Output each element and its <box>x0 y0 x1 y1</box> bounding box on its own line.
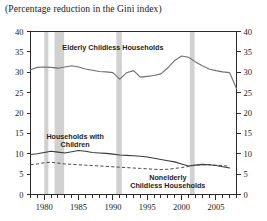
x-tick-label: 2000 <box>173 202 190 212</box>
x-tick-label: 2005 <box>207 202 224 212</box>
y-tick-label-right: 35 <box>244 47 253 57</box>
y-tick-label-left: 10 <box>15 149 24 159</box>
x-tick-label: 1980 <box>36 202 53 212</box>
chart-canvas: 0510152025303540 0510152025303540 198019… <box>0 0 267 221</box>
y-tick-label-right: 20 <box>244 108 253 118</box>
y-axis-right: 0510152025303540 <box>237 27 253 200</box>
y-tick-label-right: 5 <box>244 169 248 179</box>
chart-title: (Percentage reduction in the Gini index) <box>5 4 162 14</box>
x-axis: 198019851990199520002005 <box>31 195 237 212</box>
y-tick-label-left: 30 <box>15 67 24 77</box>
figure-container: (Percentage reduction in the Gini index)… <box>0 0 267 221</box>
recession-band <box>190 32 195 195</box>
series-label: Children <box>61 140 90 149</box>
y-tick-label-right: 25 <box>244 88 253 98</box>
x-tick-label: 1985 <box>70 202 87 212</box>
y-tick-label-right: 0 <box>244 190 248 200</box>
recession-band <box>44 32 48 195</box>
recession-band <box>116 32 121 195</box>
y-tick-label-left: 40 <box>15 27 24 37</box>
y-tick-label-left: 15 <box>15 128 24 138</box>
y-tick-label-right: 40 <box>244 27 253 37</box>
y-tick-label-left: 35 <box>15 47 24 57</box>
y-tick-label-left: 5 <box>19 169 23 179</box>
y-axis-left: 0510152025303540 <box>15 27 31 200</box>
series-label: Elderly Childless Households <box>62 43 163 52</box>
y-tick-label-left: 0 <box>19 190 23 200</box>
y-tick-label-left: 25 <box>15 88 24 98</box>
recession-bands <box>44 32 194 195</box>
series-label: Childless Households <box>130 181 205 190</box>
y-tick-label-right: 10 <box>244 149 253 159</box>
recession-band <box>55 32 65 195</box>
y-tick-label-left: 20 <box>15 108 24 118</box>
y-tick-label-right: 30 <box>244 67 253 77</box>
x-tick-label: 1990 <box>104 202 121 212</box>
y-tick-label-right: 15 <box>244 128 253 138</box>
x-tick-label: 1995 <box>139 202 156 212</box>
